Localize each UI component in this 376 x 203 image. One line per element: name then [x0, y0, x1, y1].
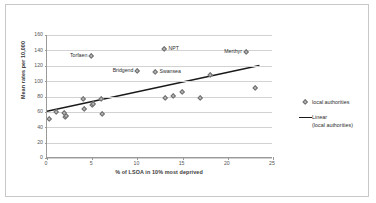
- y-tick-label: 100: [34, 79, 43, 84]
- y-tick-label: 60: [37, 109, 43, 114]
- data-point-label: Swansea: [159, 69, 180, 74]
- legend-item-linear-trend: Linear (local authorities): [298, 114, 366, 130]
- legend-item-local-authorities: local authorities: [298, 99, 366, 107]
- y-tick-mark: [45, 112, 47, 113]
- data-point-label: Merthyr: [224, 49, 242, 54]
- gridline: [47, 81, 272, 82]
- legend-label-local-authorities: local authorities: [312, 99, 349, 107]
- x-axis-title: % of LSOA in 10% most deprived: [46, 169, 272, 175]
- x-tick-label: 25: [269, 161, 275, 166]
- y-tick-label: 160: [34, 32, 43, 37]
- gridline: [47, 35, 272, 36]
- x-tick-label: 0: [45, 161, 48, 166]
- y-tick-label: 0: [40, 155, 43, 160]
- y-tick-label: 40: [37, 125, 43, 130]
- gridline: [47, 127, 272, 128]
- x-tick-label: 5: [90, 161, 93, 166]
- chart-legend: local authorities Linear (local authorit…: [298, 99, 366, 136]
- data-point-label: Torfaen: [70, 53, 87, 58]
- y-tick-label: 140: [34, 48, 43, 53]
- x-tick-label: 10: [134, 161, 140, 166]
- y-tick-mark: [45, 35, 47, 36]
- gridline: [47, 66, 272, 67]
- y-tick-mark: [45, 143, 47, 144]
- y-axis-tick-labels: 020406080100120140160: [24, 35, 43, 158]
- data-point-label: Bridgend: [113, 69, 134, 74]
- y-tick-label: 20: [37, 140, 43, 145]
- y-tick-mark: [45, 66, 47, 67]
- legend-label-linear-line2: (local authorities): [312, 122, 353, 128]
- legend-line-icon: [298, 114, 312, 118]
- legend-label-linear-trend: Linear (local authorities): [312, 114, 353, 130]
- gridline: [47, 158, 272, 159]
- plot-area: TorfaenBridgendSwanseaNPTMerthyr: [46, 35, 272, 158]
- chart-frame: Mean rates per 10,000 020406080100120140…: [5, 4, 369, 197]
- y-tick-mark: [45, 81, 47, 82]
- y-tick-mark: [45, 97, 47, 98]
- x-tick-label: 15: [179, 161, 185, 166]
- gridline: [47, 143, 272, 144]
- gridline: [47, 112, 272, 113]
- y-tick-label: 80: [37, 94, 43, 99]
- data-point-label: NPT: [169, 46, 179, 51]
- legend-label-linear-line1: Linear: [312, 114, 327, 120]
- legend-diamond-icon: [298, 99, 312, 104]
- x-tick-label: 20: [224, 161, 230, 166]
- y-tick-mark: [45, 50, 47, 51]
- y-tick-label: 120: [34, 63, 43, 68]
- y-tick-mark: [45, 127, 47, 128]
